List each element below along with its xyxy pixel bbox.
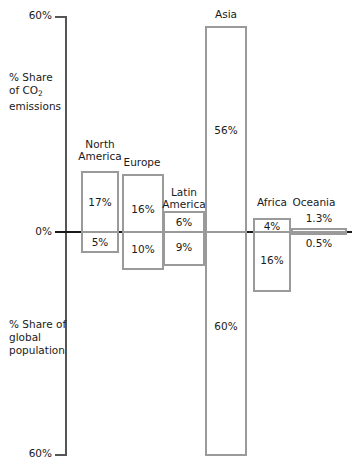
- series-label-asia: Asia: [186, 8, 266, 20]
- value-oceania-population: 0.5%: [291, 237, 347, 249]
- series-label-oceania: Oceania: [279, 196, 349, 208]
- y-tick-label-zero: 0%: [8, 225, 52, 237]
- y-tick-bottom: [55, 454, 66, 456]
- series-label-line1: Oceania: [293, 196, 336, 208]
- series-label-line2: America: [162, 198, 205, 210]
- series-label-line1: Europe: [124, 156, 161, 168]
- diverging-bar-chart: 60% 0% 60% % Share of CO2 emissions % Sh…: [0, 0, 352, 476]
- series-label-line1: Asia: [215, 8, 237, 20]
- series-label-europe: Europe: [102, 156, 182, 168]
- bar-asia-population: [205, 231, 247, 456]
- upper-axis-title-line1: % Share: [9, 71, 53, 83]
- series-label-line1: North: [85, 138, 114, 150]
- value-north-america-co2: 17%: [81, 196, 119, 208]
- value-oceania-co2: 1.3%: [291, 212, 347, 224]
- upper-axis-title: % Share of CO2 emissions: [9, 71, 67, 113]
- lower-axis-title-line3: population: [9, 344, 65, 356]
- lower-axis-title-line1: % Share of: [9, 318, 66, 330]
- value-europe-population: 10%: [122, 243, 164, 255]
- value-north-america-population: 5%: [81, 236, 119, 248]
- bar-oceania-population: [291, 231, 347, 235]
- value-asia-population: 60%: [205, 320, 247, 332]
- value-asia-co2: 56%: [205, 124, 247, 136]
- series-label-line1: Latin: [171, 186, 197, 198]
- value-latin-america-co2: 6%: [163, 216, 205, 228]
- lower-axis-title-line2: global: [9, 331, 41, 343]
- co2-subscript: 2: [38, 89, 43, 98]
- y-tick-label-bottom: 60%: [8, 447, 52, 459]
- value-latin-america-population: 9%: [163, 241, 205, 253]
- upper-axis-title-line3: emissions: [9, 100, 61, 112]
- y-tick-label-top: 60%: [8, 9, 52, 21]
- value-africa-population: 16%: [253, 254, 291, 266]
- y-tick-top: [55, 16, 66, 18]
- upper-axis-title-line2: of CO: [9, 84, 38, 96]
- lower-axis-title: % Share of global population: [9, 318, 67, 357]
